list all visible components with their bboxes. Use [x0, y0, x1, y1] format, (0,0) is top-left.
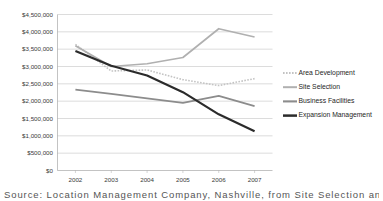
data-series [75, 29, 254, 132]
x-tick-label: 2005 [176, 176, 190, 183]
y-tick-label: $3,000,000 [22, 63, 54, 70]
axes [58, 15, 273, 171]
x-tick-label: 2003 [104, 176, 118, 183]
series-line-business-facilities [75, 90, 254, 106]
y-tick-label: $1,500,000 [22, 115, 54, 122]
legend-label-site-selection: Site Selection [299, 83, 341, 90]
chart-legend: Area DevelopmentSite SelectionBusiness F… [283, 69, 372, 120]
y-tick-label: $0 [46, 167, 53, 174]
line-chart: $0$500,000$1,000,000$1,500,000$2,000,000… [0, 0, 383, 201]
x-axis-tick-marks [75, 171, 254, 174]
legend-label-expansion-management: Expansion Management [299, 111, 372, 119]
x-axis-tick-labels: 200220032004200520062007 [69, 176, 262, 183]
y-tick-label: $500,000 [27, 149, 53, 156]
series-line-expansion-management [75, 51, 254, 131]
x-tick-label: 2004 [140, 176, 154, 183]
series-line-site-selection [75, 29, 254, 67]
x-tick-label: 2006 [212, 176, 226, 183]
y-tick-label: $4,000,000 [22, 28, 54, 35]
chart-figure: $0$500,000$1,000,000$1,500,000$2,000,000… [0, 0, 383, 201]
x-tick-label: 2007 [248, 176, 262, 183]
y-tick-label: $2,000,000 [22, 97, 54, 104]
series-line-area-development [75, 44, 254, 85]
legend-label-area-development: Area Development [299, 69, 355, 77]
y-tick-label: $2,500,000 [22, 80, 54, 87]
y-tick-label: $3,500,000 [22, 45, 54, 52]
y-tick-label: $1,000,000 [22, 132, 54, 139]
x-tick-label: 2002 [69, 176, 83, 183]
y-axis-tick-labels: $0$500,000$1,000,000$1,500,000$2,000,000… [22, 11, 54, 174]
legend-label-business-facilities: Business Facilities [299, 97, 356, 104]
figure-caption: Source: Location Management Company, Nas… [4, 189, 379, 200]
y-tick-label: $4,500,000 [22, 11, 54, 18]
